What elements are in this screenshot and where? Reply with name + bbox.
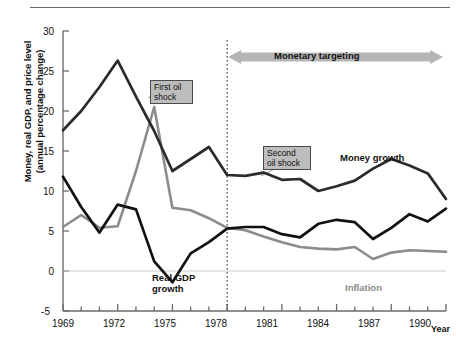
callout-first-oil-shock: First oil shock bbox=[150, 80, 193, 104]
series-line-inflation bbox=[63, 107, 446, 259]
monetary-targeting-label: Monetary targeting bbox=[274, 50, 360, 61]
series-line-money-growth bbox=[63, 61, 446, 199]
chart-figure: Money, real GDP, and price level (annual… bbox=[0, 0, 456, 341]
series-label-gdp-line2: growth bbox=[152, 283, 184, 294]
callout-second-oil-line2: oil shock bbox=[267, 158, 300, 168]
callout-second-oil-shock: Second oil shock bbox=[263, 146, 311, 170]
series-label-inflation: Inflation bbox=[345, 283, 382, 294]
series-label-gdp-line1: Real GDP bbox=[152, 272, 195, 283]
x-tick-marks bbox=[63, 304, 446, 311]
callout-first-oil-line2: shock bbox=[154, 92, 176, 102]
series-label-real-gdp-growth: Real GDP growth bbox=[152, 273, 195, 294]
callout-second-oil-line1: Second bbox=[267, 148, 296, 158]
series-label-money-growth: Money growth bbox=[340, 153, 404, 164]
plot-area bbox=[0, 0, 456, 341]
y-tick-marks bbox=[63, 31, 69, 311]
callout-first-oil-line1: First oil bbox=[154, 82, 181, 92]
series-line-real-gdp-growth bbox=[63, 177, 446, 283]
